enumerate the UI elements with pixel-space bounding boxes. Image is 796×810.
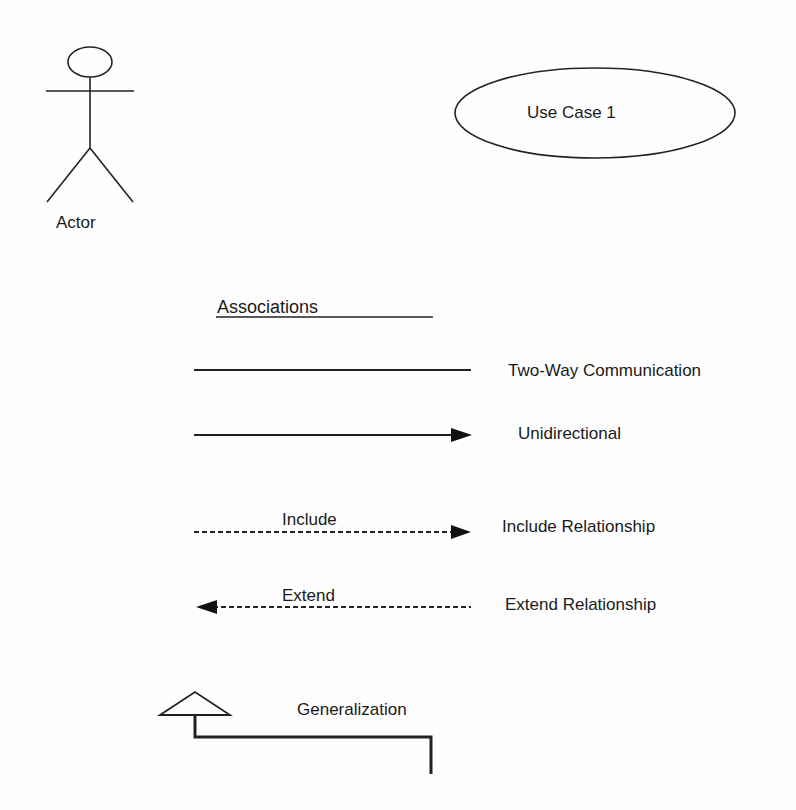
- actor-icon: [46, 47, 134, 202]
- unidirectional-arrow-icon: [194, 428, 472, 442]
- include-on-line-label: Include: [282, 511, 337, 528]
- use-case-label: Use Case 1: [527, 104, 616, 121]
- associations-heading: Associations: [217, 298, 318, 316]
- extend-on-line-label: Extend: [282, 587, 335, 604]
- include-relationship-label: Include Relationship: [502, 518, 655, 535]
- unidirectional-label: Unidirectional: [518, 425, 621, 442]
- two-way-communication-label: Two-Way Communication: [508, 362, 701, 379]
- actor-label: Actor: [56, 214, 96, 231]
- generalization-label: Generalization: [297, 701, 407, 718]
- diagram-canvas: [0, 0, 796, 810]
- extend-relationship-label: Extend Relationship: [505, 596, 656, 613]
